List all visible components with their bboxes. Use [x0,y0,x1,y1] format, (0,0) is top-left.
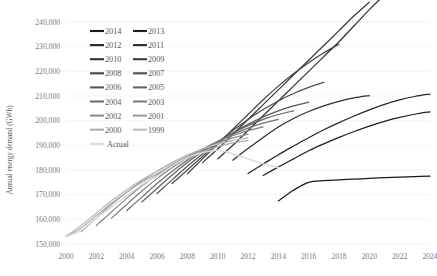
x-tick-label: 2024 [422,252,437,261]
y-tick-label: 220,000 [35,67,60,76]
series-line-2006 [157,102,309,193]
y-tick-label: 210,000 [35,92,60,101]
y-tick-label: 170,000 [35,190,60,199]
x-tick-label: 2002 [89,252,104,261]
x-tick-label: 2008 [180,252,195,261]
legend-label-2009: 2009 [148,55,164,64]
legend-label-2007: 2007 [148,69,164,78]
legend-label-2002: 2002 [105,112,121,121]
chart-svg: 150,000160,000170,000180,000190,000200,0… [0,0,437,276]
legend-label-2008: 2008 [105,69,121,78]
y-tick-label: 190,000 [35,141,60,150]
x-axis-tick-labels: 2000200220042006200820102012201420162018… [58,252,437,261]
x-tick-label: 2020 [362,252,377,261]
series-line-2014 [278,176,430,201]
energy-demand-chart: 150,000160,000170,000180,000190,000200,0… [0,0,437,276]
x-tick-label: 2004 [119,252,134,261]
y-tick-label: 180,000 [35,166,60,175]
x-tick-label: 2014 [271,252,286,261]
series-line-2009 [203,2,370,162]
series-line-2005 [142,111,294,202]
legend-label-2004: 2004 [105,98,121,107]
y-axis-title: Annual energy demand (GWh) [6,105,14,195]
y-tick-label: 240,000 [35,18,60,27]
series-line-2011 [233,96,369,161]
y-axis-title-text: Annual energy demand (GWh) [6,105,14,195]
chart-legend: 2014201220102008200620042002200020132011… [90,27,164,149]
x-tick-label: 2006 [149,252,164,261]
legend-label-2012: 2012 [105,41,121,50]
x-tick-label: 2016 [301,252,316,261]
legend-label-1999: 1999 [148,126,164,135]
legend-label-2000: 2000 [105,126,121,135]
legend-label-2005: 2005 [148,83,164,92]
legend-label-actual: Actual [107,140,130,149]
x-tick-label: 2000 [58,252,73,261]
legend-label-2013: 2013 [148,27,164,36]
legend-label-2014: 2014 [105,27,121,36]
legend-label-2003: 2003 [148,98,164,107]
x-tick-label: 2018 [331,252,346,261]
legend-label-2001: 2001 [148,112,164,121]
y-tick-label: 200,000 [35,116,60,125]
series-line-2012 [248,94,430,173]
legend-label-2011: 2011 [148,41,164,50]
x-tick-label: 2012 [240,252,255,261]
y-tick-label: 160,000 [35,215,60,224]
y-axis-tick-labels: 150,000160,000170,000180,000190,000200,0… [35,18,60,249]
legend-label-2006: 2006 [105,83,121,92]
y-tick-label: 230,000 [35,42,60,51]
legend-label-2010: 2010 [105,55,121,64]
x-tick-label: 2022 [392,252,407,261]
y-tick-label: 150,000 [35,240,60,249]
series-line-2007 [172,82,324,183]
x-tick-label: 2010 [210,252,225,261]
